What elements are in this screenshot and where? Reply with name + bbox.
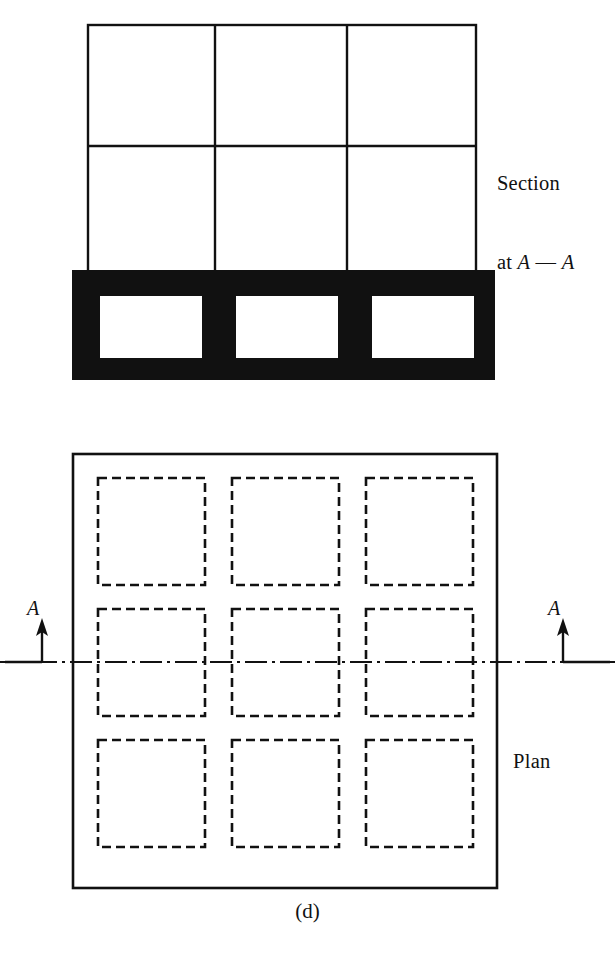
figure-caption: (d) bbox=[0, 898, 615, 925]
plan-view-group bbox=[0, 454, 615, 888]
section-view-group bbox=[72, 25, 495, 380]
plan-view-label: Plan bbox=[513, 748, 551, 774]
section-marker-right-letter: A bbox=[548, 597, 560, 620]
section-label-line-1: Section bbox=[497, 170, 574, 196]
section-label-dash: — bbox=[530, 251, 561, 273]
plan-hidden-square bbox=[366, 478, 473, 585]
section-view-label: Section at A — A bbox=[497, 118, 574, 328]
technical-drawing-figure: Section at A — A Plan A A (d) bbox=[0, 0, 615, 955]
plan-hidden-square bbox=[232, 478, 339, 585]
section-label-at: at bbox=[497, 251, 518, 273]
section-grid-outline bbox=[88, 25, 476, 272]
section-marker-right bbox=[557, 618, 610, 662]
plan-hidden-square bbox=[366, 740, 473, 847]
plan-hidden-square bbox=[98, 478, 205, 585]
section-void-3 bbox=[372, 296, 474, 358]
section-void-2 bbox=[236, 296, 338, 358]
plan-hidden-square bbox=[232, 740, 339, 847]
plan-hidden-square bbox=[98, 740, 205, 847]
section-void-1 bbox=[100, 296, 202, 358]
section-marker-left-letter: A bbox=[27, 597, 39, 620]
section-label-letter-b: A bbox=[562, 251, 575, 273]
section-label-letter-a: A bbox=[518, 251, 531, 273]
section-marker-left bbox=[5, 618, 48, 662]
plan-outline bbox=[73, 454, 497, 888]
section-label-line-2: at A — A bbox=[497, 249, 574, 275]
